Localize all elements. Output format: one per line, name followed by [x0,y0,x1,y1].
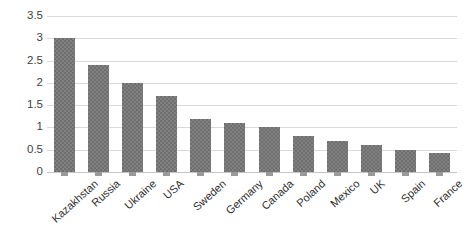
y-axis-tick-label: 0.5 [3,144,43,156]
y-axis-tick-label: 2 [3,77,43,89]
x-label-slot: Ukraine [115,176,149,226]
bar-slot [47,16,81,172]
y-axis: 00.511.522.533.5 [0,16,43,172]
x-label-slot: Mexico [320,176,354,226]
bar-series [47,16,457,172]
bar-slot [184,16,218,172]
bar[interactable] [88,65,109,172]
x-axis-labels: KazakhstanRussiaUkraineUSASwedenGermanyC… [47,176,457,226]
y-axis-tick-label: 1 [3,122,43,134]
bar[interactable] [190,119,211,172]
bar-chart: 00.511.522.533.5 KazakhstanRussiaUkraine… [0,0,473,226]
bar[interactable] [156,96,177,172]
bar-slot [115,16,149,172]
x-label-slot: France [423,176,457,226]
bar[interactable] [361,145,382,172]
x-axis-category-label: France [432,178,465,209]
bar[interactable] [293,136,314,172]
bar-slot [252,16,286,172]
bar-slot [389,16,423,172]
y-axis-tick-label: 3.5 [3,10,43,22]
x-label-slot: Germany [218,176,252,226]
x-label-slot: Russia [81,176,115,226]
bar[interactable] [122,83,143,172]
bar[interactable] [395,150,416,172]
bar-slot [320,16,354,172]
x-label-slot: USA [150,176,184,226]
x-label-slot: Poland [286,176,320,226]
bar[interactable] [429,153,450,172]
bar[interactable] [259,127,280,172]
x-label-slot: Kazakhstan [47,176,81,226]
bar[interactable] [54,38,75,172]
bar[interactable] [224,123,245,172]
bar-slot [81,16,115,172]
x-axis-category-label: UK [368,178,387,196]
bar-slot [423,16,457,172]
x-label-slot: Spain [389,176,423,226]
bar-slot [218,16,252,172]
x-label-slot: Sweden [184,176,218,226]
bar[interactable] [327,141,348,172]
y-axis-tick-label: 3 [3,33,43,45]
y-axis-tick-label: 0 [3,166,43,178]
bar-slot [286,16,320,172]
x-label-slot: UK [355,176,389,226]
bar-slot [150,16,184,172]
x-axis-category-label: USA [161,178,185,201]
y-axis-tick-label: 2.5 [3,55,43,67]
x-label-slot: Canada [252,176,286,226]
bar-slot [355,16,389,172]
y-axis-tick-label: 1.5 [3,99,43,111]
